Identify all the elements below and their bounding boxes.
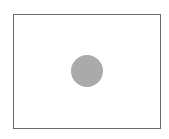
gray-circle — [71, 55, 103, 87]
diagram-canvas — [0, 0, 169, 139]
